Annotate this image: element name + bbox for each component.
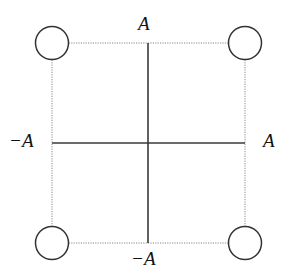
node-top-right: [229, 27, 262, 60]
node-top-left: [36, 27, 69, 60]
node-bottom-left: [36, 227, 69, 260]
figure-container: A −A −A A: [0, 0, 293, 278]
axis-lines: [52, 43, 245, 243]
node-bottom-right: [229, 227, 262, 260]
axis-label-right: A: [263, 131, 275, 150]
axis-label-bottom: −A: [131, 249, 156, 268]
axis-label-left: −A: [9, 131, 34, 150]
axis-label-top: A: [138, 14, 150, 33]
diagram-canvas: [0, 0, 293, 278]
